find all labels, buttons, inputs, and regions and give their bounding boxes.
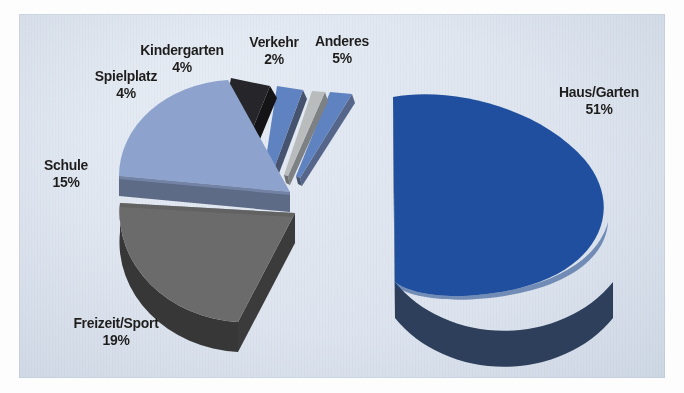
figure-canvas: Spielplatz 4% Kindergarten 4% Verkehr 2%…	[0, 0, 684, 393]
label-freizeit-sport: Freizeit/Sport 19%	[56, 315, 177, 349]
label-kindergarten: Kindergarten 4%	[128, 42, 236, 76]
label-kindergarten-pct: 4%	[128, 59, 236, 76]
label-verkehr: Verkehr 2%	[239, 34, 310, 68]
label-haus-garten: Haus/Garten 51%	[544, 84, 654, 118]
slice-haus-garten-top	[393, 94, 604, 296]
label-verkehr-pct: 2%	[239, 51, 310, 68]
label-freizeit-sport-name: Freizeit/Sport	[73, 314, 158, 331]
slice-haus-garten[interactable]	[393, 94, 613, 367]
label-schule-pct: 15%	[29, 174, 103, 191]
label-freizeit-sport-pct: 19%	[56, 332, 177, 349]
label-haus-garten-pct: 51%	[544, 101, 654, 118]
label-verkehr-name: Verkehr	[249, 33, 298, 50]
label-schule: Schule 15%	[29, 157, 103, 191]
label-kindergarten-name: Kindergarten	[140, 41, 223, 58]
label-anderes-pct: 5%	[303, 50, 381, 67]
label-schule-name: Schule	[44, 156, 88, 173]
label-anderes-name: Anderes	[315, 32, 369, 49]
label-haus-garten-name: Haus/Garten	[559, 83, 639, 100]
label-anderes: Anderes 5%	[303, 33, 381, 67]
label-spielplatz-pct: 4%	[80, 85, 173, 102]
